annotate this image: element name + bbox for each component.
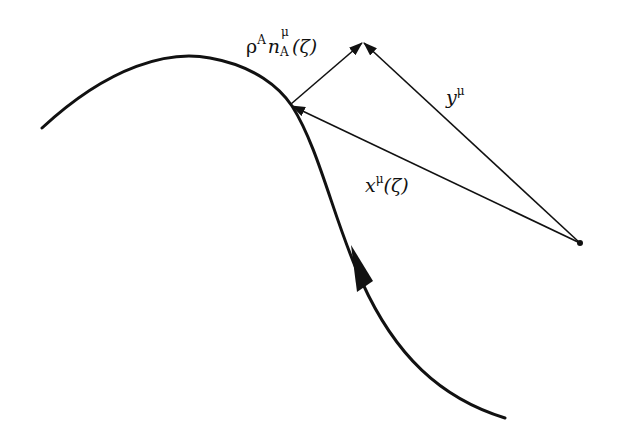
x-vector-label: xμ(ζ) xyxy=(365,176,409,195)
x-sup: μ xyxy=(376,172,384,186)
offset-n-sup: μ xyxy=(281,26,289,38)
origin-point xyxy=(577,240,583,246)
y-vector-line xyxy=(364,43,580,243)
offset-n-sub: A xyxy=(280,46,289,58)
x-base: x xyxy=(365,174,376,196)
offset-n-scripts: μA xyxy=(280,34,292,53)
x-vector-line xyxy=(292,106,580,243)
offset-rho-sup: A xyxy=(257,33,266,47)
offset-vector-label: ρAnμA(ζ) xyxy=(246,34,317,56)
y-vector-label: yμ xyxy=(446,88,465,107)
curve-direction-arrow-icon xyxy=(351,245,373,292)
offset-arg: (ζ) xyxy=(292,35,317,57)
y-base: y xyxy=(446,86,457,108)
y-sup: μ xyxy=(457,84,465,98)
x-arg: (ζ) xyxy=(384,174,409,196)
offset-rho: ρ xyxy=(246,35,257,57)
offset-n: n xyxy=(268,35,280,57)
worldline-diagram xyxy=(0,0,618,448)
